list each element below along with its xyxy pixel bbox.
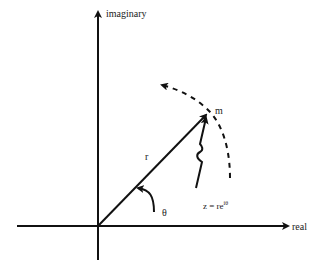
complex-plane-diagram: imaginary real r θ m z = reiθ xyxy=(0,0,317,273)
rotation-dashed-arc xyxy=(162,85,230,178)
equation-pointer-arrow xyxy=(196,118,206,188)
equation-exponent: iθ xyxy=(224,200,229,206)
radius-label: r xyxy=(145,151,149,162)
radius-vector xyxy=(98,115,206,226)
imaginary-axis-label: imaginary xyxy=(106,8,147,19)
equation-base: z = re xyxy=(203,201,224,211)
real-axis-label: real xyxy=(292,221,307,232)
equation-label: z = reiθ xyxy=(203,200,228,211)
angle-arc-arrow xyxy=(138,188,154,212)
angle-label: θ xyxy=(162,207,167,218)
point-label: m xyxy=(215,105,223,116)
